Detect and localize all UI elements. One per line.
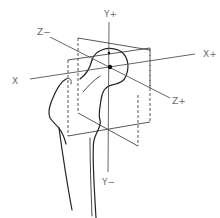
coordinate-axes bbox=[30, 22, 195, 172]
origin-point bbox=[108, 65, 112, 69]
y-axis bbox=[108, 22, 109, 172]
head-top-point bbox=[108, 52, 110, 54]
femur-axes-diagram: Y+ Y− X+ X Z− Z+ bbox=[0, 0, 220, 218]
x-axis bbox=[30, 54, 195, 79]
label-x-plus: X+ bbox=[203, 49, 217, 59]
label-x-minus: X bbox=[12, 76, 18, 86]
greater-trochanter-tip bbox=[66, 78, 71, 84]
greater-trochanter bbox=[49, 79, 66, 144]
label-z-minus: Z− bbox=[37, 27, 51, 37]
plane-back bbox=[78, 38, 150, 146]
femoral-neck-medial bbox=[93, 85, 112, 218]
label-z-plus: Z+ bbox=[172, 96, 186, 106]
label-y-plus: Y+ bbox=[103, 9, 117, 19]
femoral-shaft-medial bbox=[90, 138, 92, 216]
intertrochanteric-line bbox=[83, 76, 100, 92]
label-y-minus: Y− bbox=[101, 177, 115, 187]
plane-front-bottom-edge bbox=[68, 122, 150, 136]
